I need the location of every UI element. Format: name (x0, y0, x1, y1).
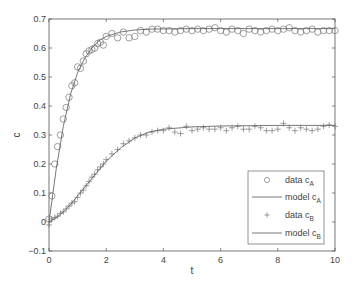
x-tick-label: 8 (275, 255, 280, 265)
legend: data cAmodel cAdata cBmodel cB (248, 171, 324, 244)
y-tick-label: 0.6 (33, 43, 46, 53)
x-tick-label: 6 (218, 255, 223, 265)
x-tick-label: 10 (330, 255, 340, 265)
y-tick-label: 0 (41, 217, 46, 227)
y-tick-label: −0.1 (28, 246, 46, 256)
y-tick-label: 0.3 (33, 130, 46, 140)
y-tick-label: 0.4 (33, 101, 46, 111)
y-tick-label: 0.5 (33, 72, 46, 82)
x-tick-label: 0 (46, 255, 51, 265)
y-tick-label: 0.1 (33, 188, 46, 198)
chart: 0246810−0.100.10.20.30.40.50.60.7 t c da… (0, 0, 356, 286)
x-tick-label: 2 (104, 255, 109, 265)
y-axis-label: c (11, 133, 22, 138)
x-axis-label: t (191, 265, 194, 276)
y-tick-label: 0.7 (33, 14, 46, 24)
y-tick-label: 0.2 (33, 159, 46, 169)
x-tick-label: 4 (161, 255, 166, 265)
